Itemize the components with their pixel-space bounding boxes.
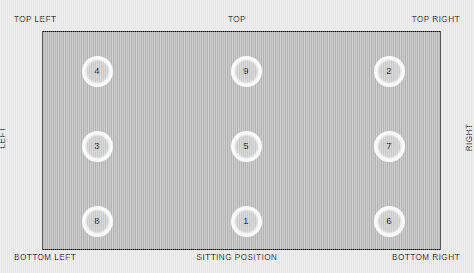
- edge-label-bottom-right: BOTTOM RIGHT: [392, 253, 460, 262]
- edge-label-left: LEFT: [0, 127, 7, 149]
- seat-circle[interactable]: 4: [82, 56, 113, 87]
- edge-label-top: TOP: [0, 15, 474, 24]
- seat-circle[interactable]: 9: [231, 56, 262, 87]
- diagram-canvas: TOP LEFT TOP TOP RIGHT LEFT RIGHT BOTTOM…: [0, 0, 474, 273]
- seat-circle[interactable]: 2: [374, 56, 405, 87]
- seat-number-label: 5: [243, 141, 248, 151]
- seat-number-label: 1: [243, 216, 248, 226]
- seat-number-label: 6: [386, 216, 391, 226]
- seat-circle[interactable]: 3: [82, 131, 113, 162]
- seat-circle[interactable]: 6: [374, 206, 405, 237]
- seat-circle[interactable]: 8: [82, 206, 113, 237]
- seat-circle[interactable]: 5: [231, 131, 262, 162]
- seat-number-label: 3: [94, 141, 99, 151]
- seat-map-area: 492357816: [42, 31, 441, 250]
- seat-number-label: 8: [94, 216, 99, 226]
- edge-label-top-right: TOP RIGHT: [412, 15, 460, 24]
- seat-number-label: 2: [386, 66, 391, 76]
- seat-number-label: 4: [94, 66, 99, 76]
- edge-label-right: RIGHT: [466, 124, 474, 152]
- seat-number-label: 7: [386, 141, 391, 151]
- seat-circle[interactable]: 1: [231, 206, 262, 237]
- seat-number-label: 9: [243, 66, 248, 76]
- seat-circle[interactable]: 7: [374, 131, 405, 162]
